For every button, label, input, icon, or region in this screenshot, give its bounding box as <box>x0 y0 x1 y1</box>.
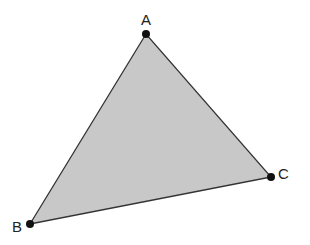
vertex-c-point <box>267 173 275 181</box>
vertex-a-label: A <box>141 11 151 28</box>
triangle-abc <box>30 34 271 224</box>
vertex-c-label: C <box>278 165 289 182</box>
vertex-a-point <box>142 30 150 38</box>
vertex-b-point <box>26 220 34 228</box>
triangle-diagram: A B C <box>0 0 310 245</box>
vertex-b-label: B <box>12 218 22 235</box>
